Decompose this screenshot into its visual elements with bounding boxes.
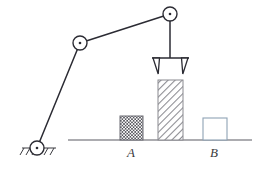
blocks-group <box>120 80 227 140</box>
block-a[interactable] <box>120 116 143 140</box>
gripper-prong-right <box>182 58 189 74</box>
base-pivot-joint[interactable] <box>30 141 44 155</box>
gripper-group[interactable] <box>152 21 189 74</box>
labels-group: A B <box>126 145 218 160</box>
elbow-joint[interactable] <box>73 36 87 50</box>
figure-canvas: A B <box>0 0 264 173</box>
lower-link <box>37 43 80 148</box>
block-a-label: A <box>126 145 135 160</box>
arm-links-group <box>37 14 170 148</box>
block-tall-hatched[interactable] <box>158 80 183 140</box>
robot-arm-blocks-diagram: A B <box>0 0 264 173</box>
block-b[interactable] <box>203 118 227 140</box>
elbow-joint-center-dot <box>79 42 82 45</box>
upper-link <box>80 14 170 43</box>
wrist-joint[interactable] <box>163 7 177 21</box>
gripper-prong-left <box>153 58 160 74</box>
block-b-label: B <box>210 145 218 160</box>
wrist-joint-center-dot <box>169 13 172 16</box>
joints-group <box>30 7 177 155</box>
base-pivot-center-dot <box>36 147 39 150</box>
